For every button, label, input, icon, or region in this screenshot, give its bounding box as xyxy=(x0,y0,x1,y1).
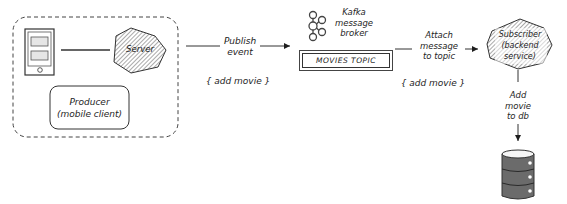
server-label: Server xyxy=(117,44,163,55)
producer-label: Producer (mobile client) xyxy=(50,96,129,120)
publish-event-label: Publish event xyxy=(216,36,264,58)
kafka-broker-label: Kafka message broker xyxy=(332,7,376,39)
database-icon xyxy=(502,150,534,199)
attach-message-label: Attach message to topic xyxy=(410,30,468,62)
kafka-logo-icon xyxy=(309,12,326,41)
add-movie-db-label: Add movie to db xyxy=(496,90,540,122)
movies-topic-box: MOVIES TOPIC xyxy=(302,53,390,68)
subscriber-label: Subscriber (backend service) xyxy=(490,29,550,62)
attach-payload-label: { add movie } xyxy=(395,78,471,89)
publish-payload-label: { add movie } xyxy=(200,76,276,87)
mobile-device-icon xyxy=(25,29,54,75)
